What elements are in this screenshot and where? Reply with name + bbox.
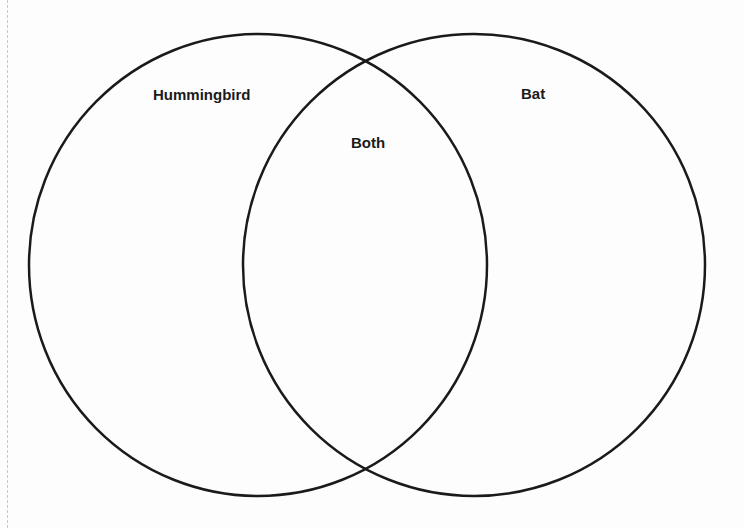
bat-circle bbox=[243, 34, 705, 496]
venn-diagram bbox=[0, 0, 744, 528]
hummingbird-circle bbox=[29, 34, 487, 496]
bat-label: Bat bbox=[521, 86, 545, 101]
hummingbird-label: Hummingbird bbox=[153, 87, 251, 102]
both-label: Both bbox=[351, 135, 385, 150]
worksheet-page: Hummingbird Both Bat bbox=[0, 0, 744, 528]
